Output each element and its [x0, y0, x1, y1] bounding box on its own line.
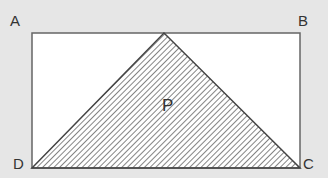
label-a: A	[10, 12, 20, 29]
label-d: D	[13, 155, 24, 172]
label-c: C	[303, 155, 314, 172]
label-b: B	[298, 12, 308, 29]
label-p: P	[162, 96, 173, 116]
diagram	[0, 0, 328, 178]
